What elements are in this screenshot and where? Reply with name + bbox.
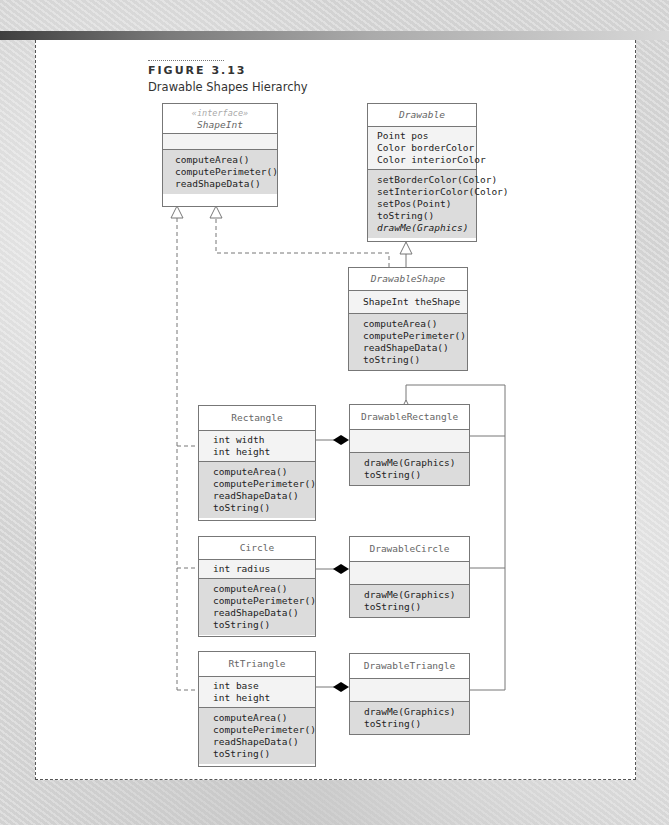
operation: drawMe(Graphics) bbox=[364, 706, 469, 718]
operation: setBorderColor(Color) bbox=[377, 174, 476, 186]
operation: computePerimeter() bbox=[363, 330, 467, 342]
attributes-section bbox=[350, 562, 469, 585]
operation: readShapeData() bbox=[175, 178, 277, 190]
class-drawablecircle: DrawableCircle drawMe(Graphics) toString… bbox=[349, 536, 470, 618]
operation: computePerimeter() bbox=[213, 595, 315, 607]
operation: drawMe(Graphics) bbox=[364, 457, 469, 469]
operation: toString() bbox=[213, 748, 315, 760]
attribute: Point pos bbox=[377, 130, 476, 142]
class-drawablerectangle: DrawableRectangle drawMe(Graphics) toStr… bbox=[349, 404, 470, 486]
attribute: Color borderColor bbox=[377, 142, 476, 154]
operations-section: computeArea() computePerimeter() readSha… bbox=[199, 579, 315, 635]
class-drawableshape: DrawableShape ShapeInt theShape computeA… bbox=[348, 267, 468, 371]
operations-section: computeArea() computePerimeter() readSha… bbox=[349, 314, 467, 370]
attributes-section: int width int height bbox=[199, 431, 315, 462]
class-drawabletriangle: DrawableTriangle drawMe(Graphics) toStri… bbox=[349, 653, 470, 735]
operation: toString() bbox=[213, 619, 315, 631]
relationship-connectors bbox=[0, 0, 669, 825]
operation: toString() bbox=[363, 354, 467, 366]
class-name: DrawableShape bbox=[349, 268, 467, 291]
attributes-section bbox=[350, 679, 469, 702]
operation: toString() bbox=[364, 601, 469, 613]
operation: computeArea() bbox=[213, 712, 315, 724]
operation: drawMe(Graphics) bbox=[377, 222, 476, 234]
operations-section: computeArea() computePerimeter() readSha… bbox=[163, 150, 277, 194]
attributes-section: int base int height bbox=[199, 677, 315, 708]
attribute: ShapeInt theShape bbox=[363, 296, 467, 308]
attribute: int width bbox=[213, 434, 315, 446]
stereotype-label: «interface» bbox=[163, 107, 277, 119]
attribute: int radius bbox=[213, 563, 315, 575]
attribute: Color interiorColor bbox=[377, 154, 476, 166]
operation: computePerimeter() bbox=[213, 478, 315, 490]
attributes-section: int radius bbox=[199, 560, 315, 579]
operation: readShapeData() bbox=[213, 490, 315, 502]
attribute: int height bbox=[213, 692, 315, 704]
operation: toString() bbox=[377, 210, 476, 222]
operations-section: drawMe(Graphics) toString() bbox=[350, 453, 469, 485]
operations-section: setBorderColor(Color) setInteriorColor(C… bbox=[368, 170, 476, 238]
class-name: DrawableCircle bbox=[350, 537, 469, 562]
operation: computePerimeter() bbox=[175, 166, 277, 178]
operation: drawMe(Graphics) bbox=[364, 589, 469, 601]
operation: computeArea() bbox=[213, 466, 315, 478]
attributes-section: ShapeInt theShape bbox=[349, 291, 467, 314]
operation: toString() bbox=[364, 718, 469, 730]
operations-section: computeArea() computePerimeter() readSha… bbox=[199, 708, 315, 764]
attribute: int base bbox=[213, 680, 315, 692]
operation: toString() bbox=[213, 502, 315, 514]
operation: computeArea() bbox=[363, 318, 467, 330]
operation: readShapeData() bbox=[213, 736, 315, 748]
class-shapeint: «interface» ShapeInt computeArea() compu… bbox=[162, 103, 278, 207]
attribute: int height bbox=[213, 446, 315, 458]
operation: readShapeData() bbox=[213, 607, 315, 619]
operation: computeArea() bbox=[175, 154, 277, 166]
operation: setInteriorColor(Color) bbox=[377, 186, 476, 198]
class-name: DrawableRectangle bbox=[350, 405, 469, 430]
operation: computeArea() bbox=[213, 583, 315, 595]
attributes-section bbox=[350, 430, 469, 453]
operation: computePerimeter() bbox=[213, 724, 315, 736]
operations-section: drawMe(Graphics) toString() bbox=[350, 585, 469, 617]
class-name: Circle bbox=[199, 537, 315, 560]
attributes-section bbox=[163, 134, 277, 150]
class-name: Rectangle bbox=[199, 406, 315, 431]
class-name: RtTriangle bbox=[199, 652, 315, 677]
class-drawable: Drawable Point pos Color borderColor Col… bbox=[367, 103, 477, 242]
class-name: DrawableTriangle bbox=[350, 654, 469, 679]
class-rectangle: Rectangle int width int height computeAr… bbox=[198, 405, 316, 521]
attributes-section: Point pos Color borderColor Color interi… bbox=[368, 127, 476, 170]
class-rttriangle: RtTriangle int base int height computeAr… bbox=[198, 651, 316, 767]
operations-section: drawMe(Graphics) toString() bbox=[350, 702, 469, 734]
class-name: Drawable bbox=[368, 104, 476, 127]
operation: toString() bbox=[364, 469, 469, 481]
class-circle: Circle int radius computeArea() computeP… bbox=[198, 536, 316, 637]
operation: readShapeData() bbox=[363, 342, 467, 354]
operations-section: computeArea() computePerimeter() readSha… bbox=[199, 462, 315, 518]
class-name: ShapeInt bbox=[197, 119, 243, 130]
operation: setPos(Point) bbox=[377, 198, 476, 210]
